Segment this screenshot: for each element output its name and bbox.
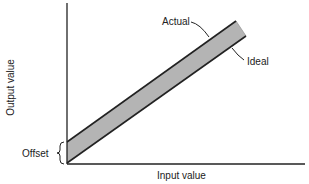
offset-error-band xyxy=(67,21,246,163)
offset-brace xyxy=(57,142,64,164)
actual-line xyxy=(67,21,236,142)
ideal-line xyxy=(67,36,246,163)
ideal-label: Ideal xyxy=(247,56,269,67)
actual-label: Actual xyxy=(162,16,190,27)
y-axis-label: Output value xyxy=(5,59,16,116)
offset-label: Offset xyxy=(22,148,49,159)
ideal-leader xyxy=(232,48,244,60)
x-axis-label: Input value xyxy=(157,170,206,181)
actual-leader xyxy=(191,22,209,37)
